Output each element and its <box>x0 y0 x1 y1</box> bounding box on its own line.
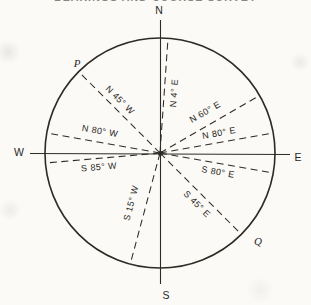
compass-svg <box>0 0 311 305</box>
compass-bearing-figure: BEARINGS AND COURSE SURVEY N 45° WN 4° E… <box>0 0 311 305</box>
bearing-ray-s85w <box>45 153 160 163</box>
bearing-ray-s15w <box>130 153 160 264</box>
center-dot <box>158 151 163 156</box>
bearing-ray-n4e <box>160 38 168 153</box>
bearing-ray-n80e <box>160 133 273 153</box>
